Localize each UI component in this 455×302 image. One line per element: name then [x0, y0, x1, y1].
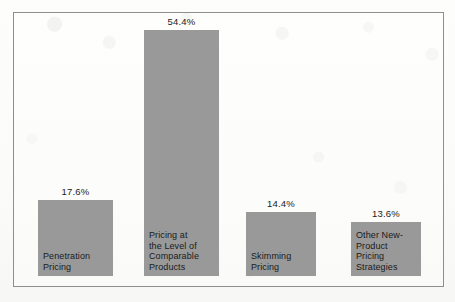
bar-group-2: 54.4% Pricing at the Level of Comparable… — [144, 30, 219, 276]
bar-category-label-1: Penetration Pricing — [43, 251, 90, 272]
chart-frame: 17.6% Penetration Pricing 54.4% Pricing … — [13, 12, 444, 287]
bar-category-label-3: Skimming Pricing — [251, 251, 291, 272]
bar-4[interactable]: Other New- Product Pricing Strategies — [351, 222, 421, 276]
bar-group-4: 13.6% Other New- Product Pricing Strateg… — [351, 222, 421, 276]
bar-group-1: 17.6% Penetration Pricing — [38, 200, 113, 276]
bar-category-label-4: Other New- Product Pricing Strategies — [356, 230, 403, 272]
plot-area: 17.6% Penetration Pricing 54.4% Pricing … — [14, 13, 443, 286]
bar-value-label-4: 13.6% — [351, 208, 421, 219]
bar-1[interactable]: Penetration Pricing — [38, 200, 113, 276]
bar-category-label-2: Pricing at the Level of Comparable Produ… — [149, 230, 199, 272]
bar-value-label-2: 54.4% — [144, 16, 219, 27]
bar-group-3: 14.4% Skimming Pricing — [246, 212, 316, 276]
bar-2[interactable]: Pricing at the Level of Comparable Produ… — [144, 30, 219, 276]
source-note — [15, 293, 435, 302]
bar-value-label-1: 17.6% — [38, 186, 113, 197]
bar-value-label-3: 14.4% — [246, 198, 316, 209]
bar-3[interactable]: Skimming Pricing — [246, 212, 316, 276]
